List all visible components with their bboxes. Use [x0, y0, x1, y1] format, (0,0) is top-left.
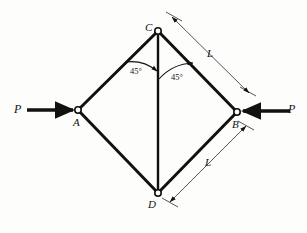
force-label-left-P: P — [14, 103, 21, 115]
joint-B — [234, 109, 240, 115]
node-label-A: A — [73, 117, 80, 128]
joint-A — [75, 107, 81, 113]
dimension-DB-tick-start — [238, 121, 254, 130]
dimension-label-DB-L: L — [205, 157, 211, 168]
angle-label-left-45: 45° — [130, 67, 142, 76]
member-CB — [158, 31, 237, 112]
member-AD — [78, 110, 158, 193]
member-DB — [158, 112, 237, 193]
joint-D — [155, 190, 161, 196]
node-label-C: C — [145, 22, 152, 33]
node-label-B: B — [232, 119, 239, 130]
dimension-label-CB-L: L — [207, 48, 213, 59]
force-label-right-P: P — [288, 103, 295, 115]
truss-members — [78, 31, 237, 193]
joint-C — [155, 28, 161, 34]
member-CA — [78, 31, 158, 110]
angle-label-right-45: 45° — [171, 73, 183, 82]
truss-figure: C A B D P P 45° 45° L L — [0, 0, 307, 233]
dimension-DB-tick-end — [162, 198, 178, 207]
node-label-D: D — [148, 199, 156, 210]
